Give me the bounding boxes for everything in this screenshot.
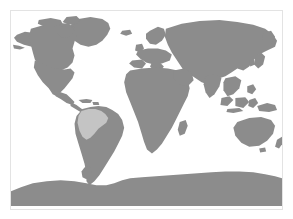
world-map-figure: World Map	[0, 0, 293, 219]
map-frame	[10, 10, 283, 210]
hispaniola-shape	[92, 102, 99, 105]
world-map-svg	[11, 11, 282, 209]
